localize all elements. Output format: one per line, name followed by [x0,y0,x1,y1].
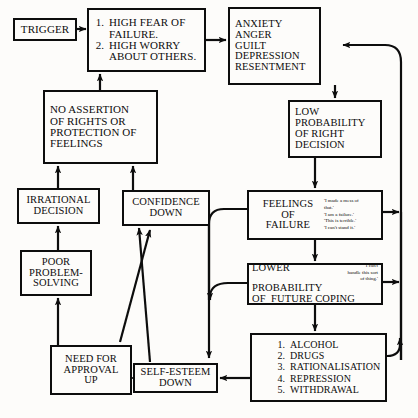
node-trigger-label: TRIGGER [21,24,69,35]
feelings-of-failure-quote: 'I made a mess of that.' 'I am a failure… [324,198,378,232]
node-low-probability-label: LOW PROBABILITY OF RIGHT DECISION [295,107,366,151]
node-self-esteem-down-label: SELF-ESTEEM DOWN [141,367,211,389]
node-irrational-decision[interactable]: IRRATIONAL DECISION [17,188,100,224]
list-item-number: 3. [274,362,285,372]
list-item: 2. DRUGS [274,351,380,361]
node-feelings-of-failure-label: FEELINGS OF FAILURE [252,199,324,232]
node-irrational-decision-label: IRRATIONAL DECISION [27,195,91,217]
list-item-label: DRUGS [290,351,324,361]
list-item-label: RATIONALISATION [290,362,380,372]
edge-need-approval-to-confidence [120,230,150,342]
list-item-number: 2. [93,40,104,63]
node-lower-probability-line3: OF FUTURE COPING [252,294,355,305]
node-need-for-approval-label: NEED FOR APPROVAL UP [64,354,119,387]
feelings-row: FEELINGS OF FAILURE 'I made a mess of th… [252,194,378,236]
edge-lower-probability-to-left-bus [210,283,247,300]
list-item-number: 4. [274,374,285,384]
node-confidence-down[interactable]: CONFIDENCE DOWN [122,190,210,226]
node-lower-probability-line1: LOWER [252,263,290,274]
edge-coping-list-to-right-bus [387,338,400,356]
node-poor-problem-solving[interactable]: POOR PROBLEM- SOLVING [20,250,92,296]
node-need-for-approval[interactable]: NEED FOR APPROVAL UP [50,345,132,395]
list-item-label: WITHDRAWAL [290,385,359,395]
list-item: 4. REPRESSION [274,374,380,384]
node-emotions[interactable]: ANXIETY ANGER GUILT DEPRESSION RESENTMEN… [228,7,321,85]
lower-probability-row1: LOWER 'I can't handle this sort of thing… [252,263,378,283]
list-item-number: 1. [93,17,104,40]
node-poor-problem-solving-label: POOR PROBLEM- SOLVING [29,257,83,290]
node-lower-probability[interactable]: LOWER 'I can't handle this sort of thing… [247,263,383,305]
list-item: 2. HIGH WORRY ABOUT OTHERS. [93,40,196,63]
node-trigger[interactable]: TRIGGER [13,18,77,41]
node-no-assertion[interactable]: NO ASSERTION OF RIGHTS OR PROTECTION OF … [43,90,158,164]
list-item-label: HIGH WORRY ABOUT OTHERS. [109,40,196,63]
list-item-label: HIGH FEAR OF FAILURE. [109,17,185,40]
node-coping-list[interactable]: 1. ALCOHOL 2. DRUGS 3. RATIONALISATION 4… [250,333,387,402]
list-item: 1. HIGH FEAR OF FAILURE. [93,17,196,40]
list-item-number: 5. [274,385,285,395]
node-confidence-down-label: CONFIDENCE DOWN [132,197,200,219]
list-item: 1. ALCOHOL [274,340,380,350]
list-item: 5. WITHDRAWAL [274,385,380,395]
node-low-probability[interactable]: LOW PROBABILITY OF RIGHT DECISION [288,100,382,158]
list-item-label: ALCOHOL [290,340,338,350]
list-item-number: 1. [274,340,285,350]
list-item: 3. RATIONALISATION [274,362,380,372]
node-feelings-of-failure[interactable]: FEELINGS OF FAILURE 'I made a mess of th… [247,190,383,240]
list-item-number: 2. [274,351,285,361]
coping-list: 1. ALCOHOL 2. DRUGS 3. RATIONALISATION 4… [274,340,380,396]
node-self-esteem-down[interactable]: SELF-ESTEEM DOWN [133,363,218,393]
node-no-assertion-label: NO ASSERTION OF RIGHTS OR PROTECTION OF … [50,104,137,150]
node-emotions-label: ANXIETY ANGER GUILT DEPRESSION RESENTMEN… [235,19,305,74]
high-fear-list: 1. HIGH FEAR OF FAILURE. 2. HIGH WORRY A… [93,17,196,63]
list-item-label: REPRESSION [290,374,351,384]
node-high-fear[interactable]: 1. HIGH FEAR OF FAILURE. 2. HIGH WORRY A… [87,8,206,72]
lower-probability-quote: 'I can't handle this sort of thing.' [290,263,378,283]
flowchart-canvas: TRIGGER 1. HIGH FEAR OF FAILURE. 2. HIGH… [0,0,418,418]
